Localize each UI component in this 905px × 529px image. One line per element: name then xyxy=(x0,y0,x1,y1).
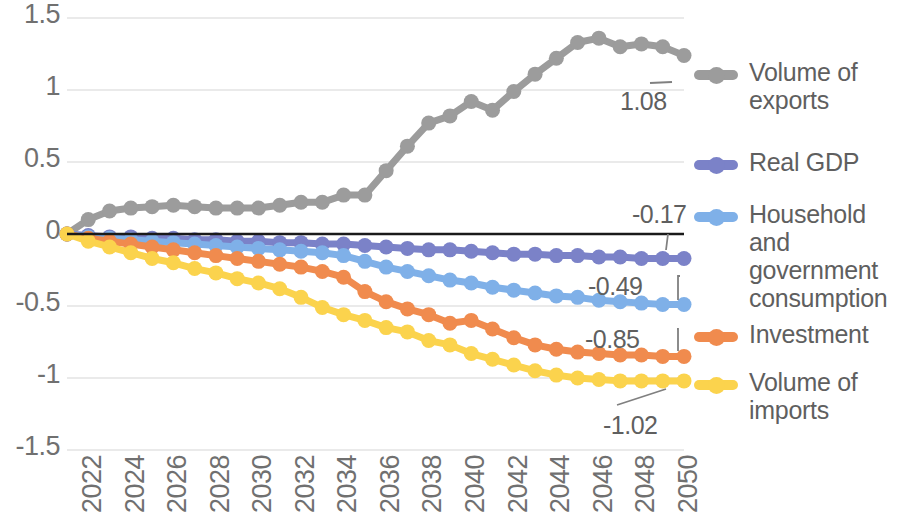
x-tick-label: 2040 xyxy=(460,455,491,513)
chart-legend: Volume ofexportsReal GDPHousehold andgov… xyxy=(694,0,905,529)
x-tick-label: 2044 xyxy=(545,455,576,513)
x-tick-label: 2026 xyxy=(162,455,193,513)
x-tick-label: 2036 xyxy=(375,455,406,513)
plot-area xyxy=(67,18,684,450)
x-tick-label: 2030 xyxy=(247,455,278,513)
x-tick-label: 2032 xyxy=(290,455,321,513)
legend-label: Volume ofimports xyxy=(749,368,857,424)
value-callout: 1.08 xyxy=(620,87,667,116)
x-tick-label: 2042 xyxy=(503,455,534,513)
legend-item[interactable]: Volume ofimports xyxy=(694,368,857,424)
value-callout: -0.17 xyxy=(632,200,686,229)
legend-item[interactable]: Household andgovernmentconsumption xyxy=(694,200,905,312)
legend-label: Volume ofexports xyxy=(749,58,857,114)
x-tick-label: 2046 xyxy=(588,455,619,513)
legend-color-swatch xyxy=(694,70,738,80)
legend-color-swatch xyxy=(694,160,738,170)
chart-container: 1.510.50-0.5-1-1.5 1.08-0.17-0.49-0.85-1… xyxy=(0,0,905,529)
legend-color-swatch xyxy=(694,380,738,390)
value-callout: -0.85 xyxy=(585,325,639,354)
x-tick-label: 2048 xyxy=(630,455,661,513)
legend-color-swatch xyxy=(694,332,738,342)
legend-item[interactable]: Volume ofexports xyxy=(694,58,857,114)
legend-label: Household andgovernmentconsumption xyxy=(749,200,905,312)
legend-color-swatch xyxy=(694,212,738,222)
legend-item[interactable]: Investment xyxy=(694,320,868,348)
x-tick-label: 2024 xyxy=(120,455,151,513)
x-tick-label: 2028 xyxy=(205,455,236,513)
value-callout: -0.49 xyxy=(588,272,642,301)
value-callout: -1.02 xyxy=(603,411,657,440)
x-tick-label: 2022 xyxy=(77,455,108,513)
x-tick-label: 2038 xyxy=(417,455,448,513)
legend-label: Investment xyxy=(749,320,868,348)
legend-label: Real GDP xyxy=(749,148,859,176)
legend-item[interactable]: Real GDP xyxy=(694,148,859,176)
x-tick-label: 2034 xyxy=(332,455,363,513)
